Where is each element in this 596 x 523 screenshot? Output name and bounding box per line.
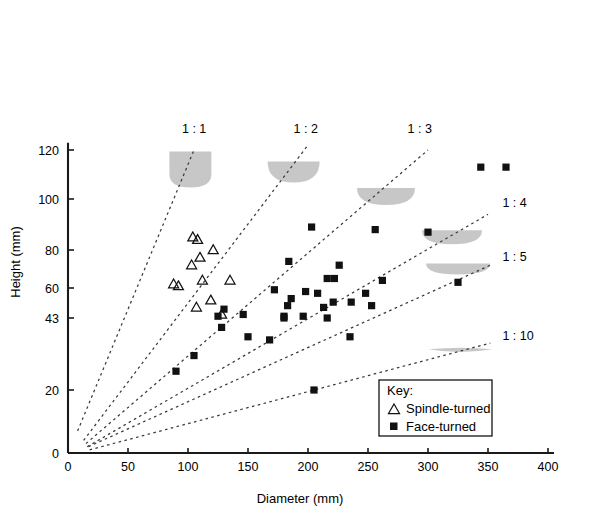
y-tick-label-80: 80 bbox=[45, 244, 59, 258]
legend-marker-face-turned bbox=[390, 423, 398, 431]
y-tick-label-60: 60 bbox=[45, 282, 59, 296]
bowl-glyph-ratio-10 bbox=[428, 348, 492, 352]
y-tick-label-120: 120 bbox=[38, 144, 59, 158]
x-tick-label-0: 0 bbox=[65, 460, 72, 474]
data-point-spindle-turned bbox=[193, 235, 203, 244]
data-point-spindle-turned bbox=[225, 275, 235, 284]
y-axis-title-text: Height (mm) bbox=[8, 226, 23, 298]
data-point-face-turned bbox=[368, 302, 375, 309]
data-point-layer bbox=[169, 164, 510, 394]
data-point-face-turned bbox=[190, 352, 197, 359]
data-point-face-turned bbox=[330, 299, 337, 306]
data-point-face-turned bbox=[362, 290, 369, 297]
data-point-face-turned bbox=[314, 290, 321, 297]
data-point-face-turned bbox=[214, 313, 221, 320]
legend-title: Key: bbox=[387, 383, 413, 398]
x-tick-label-150: 150 bbox=[238, 460, 259, 474]
data-point-spindle-turned bbox=[197, 275, 207, 284]
ratio-label-3: 1 : 3 bbox=[408, 122, 432, 136]
data-point-face-turned bbox=[454, 279, 461, 286]
legend: Key: Spindle-turned Face-turned bbox=[379, 380, 492, 436]
data-point-face-turned bbox=[424, 229, 431, 236]
data-point-face-turned bbox=[240, 311, 247, 318]
ratio-label-4: 1 : 4 bbox=[502, 196, 526, 210]
x-tick-label-250: 250 bbox=[358, 460, 379, 474]
chart-canvas: 050100150200250300350400020436080100120 … bbox=[0, 0, 596, 523]
ratio-label-2: 1 : 2 bbox=[294, 122, 318, 136]
data-point-face-turned bbox=[324, 314, 331, 321]
scatter-chart: 050100150200250300350400020436080100120 … bbox=[0, 0, 596, 523]
data-point-face-turned bbox=[336, 262, 343, 269]
y-axis-title: Height (mm) bbox=[8, 226, 23, 298]
bowl-glyph-ratio-5 bbox=[426, 264, 490, 275]
data-point-face-turned bbox=[310, 386, 317, 393]
data-point-face-turned bbox=[218, 324, 225, 331]
data-point-spindle-turned bbox=[195, 252, 205, 261]
legend-label-face-turned: Face-turned bbox=[406, 419, 476, 434]
data-point-face-turned bbox=[320, 304, 327, 311]
ratio-label-10: 1 : 10 bbox=[502, 329, 533, 343]
data-point-face-turned bbox=[300, 313, 307, 320]
bowl-glyph-ratio-3 bbox=[357, 188, 415, 205]
data-point-face-turned bbox=[346, 333, 353, 340]
x-tick-label-200: 200 bbox=[298, 460, 319, 474]
data-point-face-turned bbox=[302, 288, 309, 295]
x-tick-label-100: 100 bbox=[178, 460, 199, 474]
y-tick-label-0: 0 bbox=[52, 447, 59, 461]
x-axis-title: Diameter (mm) bbox=[257, 491, 344, 506]
bowl-glyph-ratio-1 bbox=[169, 152, 211, 188]
data-point-face-turned bbox=[220, 306, 227, 313]
x-tick-label-400: 400 bbox=[538, 460, 559, 474]
data-point-spindle-turned bbox=[206, 295, 216, 304]
data-point-face-turned bbox=[284, 302, 291, 309]
data-point-face-turned bbox=[266, 336, 273, 343]
y-tick-label-43: 43 bbox=[45, 312, 59, 326]
data-point-face-turned bbox=[271, 286, 278, 293]
x-axis-title-text: Diameter (mm) bbox=[257, 491, 344, 506]
data-point-face-turned bbox=[477, 164, 484, 171]
bowl-glyph-ratio-2 bbox=[268, 162, 320, 183]
ratio-label-1: 1 : 1 bbox=[182, 122, 206, 136]
data-point-face-turned bbox=[331, 275, 338, 282]
ratio-line-1 bbox=[78, 150, 194, 431]
y-tick-label-20: 20 bbox=[45, 384, 59, 398]
data-point-face-turned bbox=[285, 258, 292, 265]
legend-label-spindle-turned: Spindle-turned bbox=[406, 401, 491, 416]
x-tick-label-50: 50 bbox=[121, 460, 135, 474]
data-point-face-turned bbox=[372, 226, 379, 233]
x-tick-label-350: 350 bbox=[478, 460, 499, 474]
data-point-spindle-turned bbox=[208, 245, 218, 254]
x-tick-label-300: 300 bbox=[418, 460, 439, 474]
ratio-label-5: 1 : 5 bbox=[502, 250, 526, 264]
data-point-face-turned bbox=[244, 333, 251, 340]
data-point-face-turned bbox=[502, 164, 509, 171]
data-point-face-turned bbox=[308, 223, 315, 230]
data-point-face-turned bbox=[379, 277, 386, 284]
data-point-face-turned bbox=[348, 299, 355, 306]
data-point-face-turned bbox=[324, 275, 331, 282]
data-point-face-turned bbox=[172, 368, 179, 375]
data-point-face-turned bbox=[288, 295, 295, 302]
y-tick-label-100: 100 bbox=[38, 193, 59, 207]
data-point-face-turned bbox=[280, 314, 287, 321]
data-point-spindle-turned bbox=[191, 302, 201, 311]
